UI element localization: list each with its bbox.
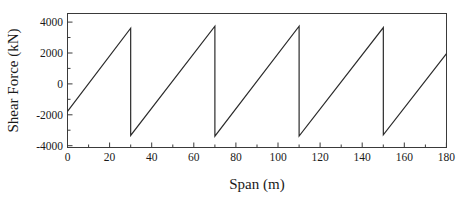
x-tick-label-120: 120 [311,151,329,163]
y-tick-label-4000: 4000 [40,16,63,28]
y-tick-label-2000: 2000 [40,47,63,59]
y-tick-label-minus4000: -4000 [36,140,63,152]
x-tick-label-0: 0 [65,151,71,163]
x-tick-label-20: 20 [104,151,116,163]
x-axis-title: Span (m) [229,176,284,193]
y-axis-title: Shear Force (kN) [5,28,22,132]
y-tick-label-minus2000: -2000 [36,109,63,121]
x-tick-label-160: 160 [396,151,414,163]
x-tick-label-60: 60 [188,151,200,163]
y-axis-ticks [68,22,73,146]
x-axis-tick-labels: 0 20 40 60 80 100 120 140 160 180 [65,151,456,163]
shear-force-series-line [68,26,447,136]
y-tick-label-0: 0 [57,78,63,90]
x-tick-label-100: 100 [269,151,287,163]
x-axis-ticks [68,143,447,148]
x-tick-label-180: 180 [438,151,456,163]
x-tick-label-140: 140 [354,151,372,163]
x-tick-label-40: 40 [146,151,158,163]
chart-canvas: 4000 2000 0 -2000 -4000 0 20 40 60 80 10… [0,0,470,202]
shear-force-chart-figure: 4000 2000 0 -2000 -4000 0 20 40 60 80 10… [0,0,470,202]
y-axis-tick-labels: 4000 2000 0 -2000 -4000 [36,16,63,152]
x-tick-label-80: 80 [230,151,242,163]
